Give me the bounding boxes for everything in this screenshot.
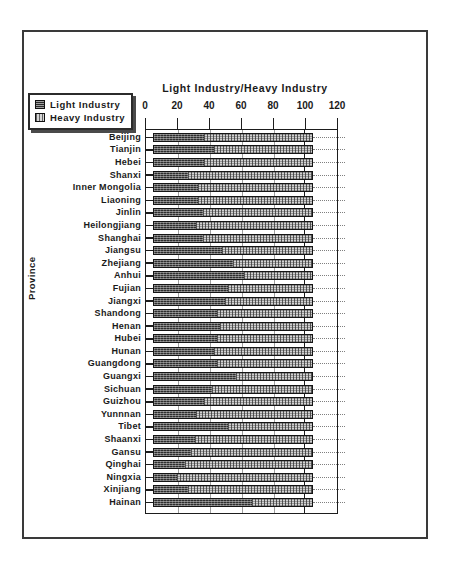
bar-trail-guide <box>313 275 345 276</box>
row-label-tibet: Tibet <box>60 422 145 431</box>
row-label-guizhou: Guizhou <box>60 397 145 406</box>
row-label-gansu: Gansu <box>60 448 145 457</box>
stacked-bar <box>153 158 346 167</box>
y-tick-mark <box>145 502 153 504</box>
bar-trail-guide <box>313 464 345 465</box>
x-tick-mark-100 <box>305 118 306 129</box>
y-tick-mark <box>145 401 153 403</box>
bar-trail-guide <box>313 389 345 390</box>
bar-segment-light-industry <box>153 347 214 356</box>
x-tick-label-20: 20 <box>171 100 182 111</box>
y-tick-mark <box>145 300 153 302</box>
y-tick-mark <box>145 137 153 139</box>
bar-segment-heavy-industry <box>177 473 313 482</box>
row-label-hubei: Hubei <box>60 334 145 343</box>
row-label-qinghai: Qinghai <box>60 460 145 469</box>
bar-row: Jiangxi <box>60 295 350 308</box>
stacked-bar <box>153 183 346 192</box>
bar-segment-light-industry <box>153 435 195 444</box>
bar-segment-light-industry <box>153 309 217 318</box>
bar-segment-light-industry <box>153 460 185 469</box>
bar-trail-guide <box>313 313 345 314</box>
bar-row: Xinjiang <box>60 484 350 497</box>
bar-segment-heavy-industry <box>204 158 313 167</box>
bar-segment-heavy-industry <box>225 297 313 306</box>
stacked-bar <box>153 485 346 494</box>
stacked-bar <box>153 208 346 217</box>
row-label-tianjin: Tianjin <box>60 145 145 154</box>
bar-row: Yunnnan <box>60 408 350 421</box>
y-tick-mark <box>145 464 153 466</box>
bar-segment-heavy-industry <box>195 435 313 444</box>
y-tick-mark <box>145 388 153 390</box>
bar-trail-guide <box>313 426 345 427</box>
x-axis-tick-labels: 020406080100120 <box>0 100 449 114</box>
row-label-sichuan: Sichuan <box>60 385 145 394</box>
stacked-bar <box>153 422 346 431</box>
y-tick-mark <box>145 250 153 252</box>
bar-row: Jinlin <box>60 207 350 220</box>
row-label-xinjiang: Xinjiang <box>60 485 145 494</box>
y-tick-mark <box>145 477 153 479</box>
stacked-bar <box>153 246 346 255</box>
bar-segment-heavy-industry <box>204 397 313 406</box>
bar-segment-light-industry <box>153 133 204 142</box>
bar-row: Fujian <box>60 282 350 295</box>
row-label-jiangxi: Jiangxi <box>60 297 145 306</box>
row-label-shaanxi: Shaanxi <box>60 435 145 444</box>
bar-segment-light-industry <box>153 334 217 343</box>
bar-segment-heavy-industry <box>214 347 313 356</box>
bar-segment-light-industry <box>153 196 198 205</box>
bar-rows: BeijingTianjinHebeiShanxiInner MongoliaL… <box>60 131 350 509</box>
stacked-bar <box>153 385 346 394</box>
bar-row: Guangdong <box>60 358 350 371</box>
bar-row: Ningxia <box>60 471 350 484</box>
bar-segment-light-industry <box>153 221 196 230</box>
stacked-bar <box>153 435 346 444</box>
y-tick-mark <box>145 225 153 227</box>
bar-segment-light-industry <box>153 234 203 243</box>
bar-trail-guide <box>313 414 345 415</box>
y-axis-title: Province <box>26 257 37 300</box>
row-label-guangxi: Guangxi <box>60 372 145 381</box>
row-label-inner-mongolia: Inner Mongolia <box>60 183 145 192</box>
bar-row: Guizhou <box>60 395 350 408</box>
bar-segment-light-industry <box>153 485 188 494</box>
y-tick-mark <box>145 288 153 290</box>
bar-segment-heavy-industry <box>204 133 313 142</box>
stacked-bar <box>153 297 346 306</box>
bar-segment-light-industry <box>153 372 236 381</box>
bar-segment-light-industry <box>153 297 225 306</box>
x-tick-label-100: 100 <box>297 100 314 111</box>
bar-segment-heavy-industry <box>217 359 313 368</box>
bar-trail-guide <box>313 338 345 339</box>
bar-segment-light-industry <box>153 359 217 368</box>
x-tick-mark-120 <box>337 118 338 129</box>
y-tick-mark <box>145 149 153 151</box>
bar-segment-heavy-industry <box>203 208 313 217</box>
y-tick-mark <box>145 414 153 416</box>
bar-trail-guide <box>313 238 345 239</box>
row-label-ningxia: Ningxia <box>60 473 145 482</box>
row-label-fujian: Fujian <box>60 284 145 293</box>
bar-trail-guide <box>313 149 345 150</box>
y-tick-mark <box>145 200 153 202</box>
bar-trail-guide <box>313 477 345 478</box>
bar-segment-light-industry <box>153 183 198 192</box>
bar-trail-guide <box>313 502 345 503</box>
bar-row: Shaanxi <box>60 433 350 446</box>
bar-row: Tianjin <box>60 144 350 157</box>
x-tick-label-120: 120 <box>329 100 346 111</box>
bar-trail-guide <box>313 263 345 264</box>
bar-row: Hubei <box>60 333 350 346</box>
row-label-henan: Henan <box>60 322 145 331</box>
bar-segment-heavy-industry <box>198 183 313 192</box>
stacked-bar <box>153 334 346 343</box>
bar-row: Gansu <box>60 446 350 459</box>
stacked-bar <box>153 460 346 469</box>
row-label-jinlin: Jinlin <box>60 208 145 217</box>
stacked-bar <box>153 133 346 142</box>
stacked-bar <box>153 145 346 154</box>
y-tick-mark <box>145 489 153 491</box>
bar-trail-guide <box>313 326 345 327</box>
